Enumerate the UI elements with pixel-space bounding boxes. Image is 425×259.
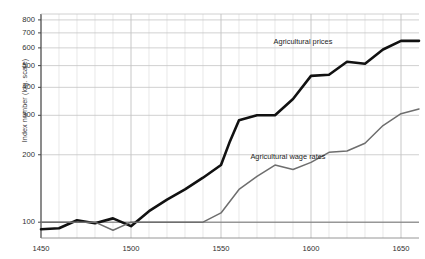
series-annotation-agricultural-prices: Agricultural prices xyxy=(274,37,333,46)
chart-container: Index number (log. scale) 10020030040050… xyxy=(0,0,425,259)
x-axis-tick-label: 1500 xyxy=(109,244,153,253)
series-annotation-agricultural-wage-rates: Agricultural wage rates xyxy=(250,152,325,161)
y-axis-tick-label: 200 xyxy=(6,150,35,159)
y-axis-tick-label: 600 xyxy=(6,43,35,52)
y-axis-tick-label: 500 xyxy=(6,61,35,70)
y-axis-tick-label: 700 xyxy=(6,28,35,37)
x-axis-tick-label: 1450 xyxy=(19,244,63,253)
y-axis-tick-label: 800 xyxy=(6,15,35,24)
y-axis-tick-label: 400 xyxy=(6,82,35,91)
x-axis-tick-label: 1550 xyxy=(199,244,243,253)
y-axis-tick-label: 100 xyxy=(6,217,35,226)
x-axis-tick-label: 1600 xyxy=(289,244,333,253)
x-axis-tick-label: 1650 xyxy=(379,244,423,253)
line-chart-plot xyxy=(0,0,425,259)
y-axis-tick-label: 300 xyxy=(6,110,35,119)
